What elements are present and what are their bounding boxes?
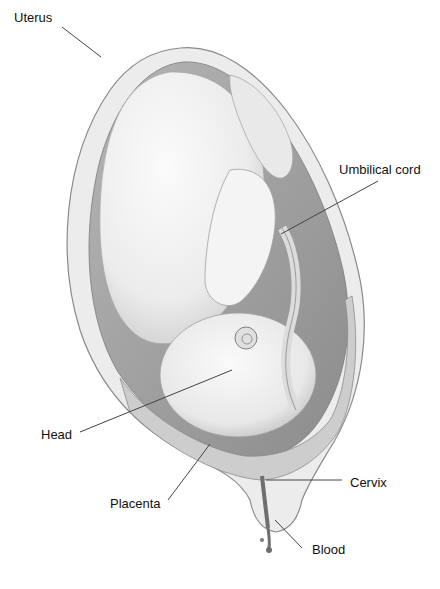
label-umbilical-cord: Umbilical cord bbox=[339, 163, 421, 176]
label-placenta: Placenta bbox=[110, 497, 161, 510]
blood-drip bbox=[268, 528, 269, 548]
blood-drop bbox=[260, 538, 264, 542]
diagram-canvas: Uterus Umbilical cord Head Placenta Cerv… bbox=[0, 0, 440, 589]
uterus-illustration bbox=[0, 0, 440, 589]
label-blood: Blood bbox=[312, 543, 345, 556]
label-uterus: Uterus bbox=[14, 11, 52, 24]
uterus-leader-line bbox=[62, 27, 101, 57]
fetus-ear bbox=[235, 327, 257, 349]
blood-drop bbox=[266, 547, 272, 553]
label-cervix: Cervix bbox=[350, 476, 387, 489]
label-head: Head bbox=[41, 428, 72, 441]
